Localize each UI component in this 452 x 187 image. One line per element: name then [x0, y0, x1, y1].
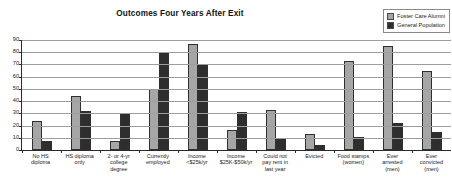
bar-groups: [22, 40, 451, 150]
bar-pair: [412, 40, 451, 150]
legend-swatch-icon: [387, 22, 394, 29]
gridline: [22, 126, 451, 127]
bar: [393, 123, 403, 150]
gridline: [22, 101, 451, 102]
y-axis-tickmark: [19, 77, 22, 78]
x-axis-label: Food stamps(women): [334, 153, 373, 187]
bar-group: [334, 40, 373, 150]
y-axis-tickmark: [19, 113, 22, 114]
x-axis-label: 2- or 4-yrcollegedegree: [99, 153, 138, 187]
x-axis-label: No HSdiploma: [21, 153, 60, 187]
y-axis-tickmark: [19, 89, 22, 90]
legend-item-label: Foster Care Alumni: [397, 12, 445, 21]
bar: [276, 138, 286, 150]
y-axis-tickmark: [19, 40, 22, 41]
x-axis-label: HS diplomaonly: [60, 153, 99, 187]
y-axis-tickmark: [19, 150, 22, 151]
y-axis-tickmark: [19, 101, 22, 102]
bar: [432, 132, 442, 150]
y-axis-tickmark: [19, 64, 22, 65]
gridline: [22, 113, 451, 114]
legend-item-label: General Population: [397, 21, 445, 30]
x-axis-label: Currentlyemployed: [138, 153, 177, 187]
bar: [237, 112, 247, 150]
y-axis-tickmark: [19, 52, 22, 53]
gridline: [22, 52, 451, 53]
bar-group: [295, 40, 334, 150]
bar-pair: [178, 40, 217, 150]
y-axis: 0102030405060708090: [0, 40, 21, 152]
bar-pair: [217, 40, 256, 150]
bar-pair: [295, 40, 334, 150]
bar-group: [100, 40, 139, 150]
bar-group: [139, 40, 178, 150]
bar-group: [22, 40, 61, 150]
legend-item-foster-care-alumni: Foster Care Alumni: [387, 12, 445, 21]
bar-pair: [61, 40, 100, 150]
chart-legend: Foster Care Alumni General Population: [383, 9, 450, 33]
bar: [149, 89, 159, 150]
bar: [227, 130, 237, 150]
x-axis-label: Everconvicted(men): [412, 153, 451, 187]
bar-group: [412, 40, 451, 150]
bar-pair: [22, 40, 61, 150]
bar: [344, 61, 354, 150]
legend-item-general-population: General Population: [387, 21, 445, 30]
bar-pair: [256, 40, 295, 150]
gridline: [22, 138, 451, 139]
bar: [383, 46, 393, 150]
bar-pair: [139, 40, 178, 150]
bar-group: [178, 40, 217, 150]
y-axis-tickmark: [19, 138, 22, 139]
x-axis-label: Income$25K-$50k/yr: [216, 153, 255, 187]
bar: [120, 113, 130, 150]
bar: [188, 44, 198, 150]
bar-pair: [100, 40, 139, 150]
bar-group: [61, 40, 100, 150]
gridline: [22, 40, 451, 41]
bar: [305, 134, 315, 150]
plot-area: 0102030405060708090: [0, 40, 452, 152]
chart-title: Outcomes Four Years After Exit: [0, 9, 360, 18]
bar: [266, 110, 276, 150]
x-axis-labels: No HSdiplomaHS diplomaonly2- or 4-yrcoll…: [21, 153, 451, 187]
bar: [71, 96, 81, 150]
bar-group: [256, 40, 295, 150]
bar-group: [217, 40, 256, 150]
bar: [110, 141, 120, 150]
gridline: [22, 150, 451, 151]
gridline: [22, 64, 451, 65]
plot-canvas: [21, 40, 451, 151]
bar-pair: [373, 40, 412, 150]
x-axis-label: Everarrested(men): [373, 153, 412, 187]
gridline: [22, 77, 451, 78]
x-axis-label: Could notpay rent inlast year: [256, 153, 295, 187]
y-axis-tickmark: [19, 126, 22, 127]
bar: [81, 111, 91, 150]
bar: [42, 141, 52, 150]
bar-group: [373, 40, 412, 150]
gridline: [22, 89, 451, 90]
legend-swatch-icon: [387, 13, 394, 20]
x-axis-label: Income<$25k/yr: [177, 153, 216, 187]
x-axis-label: Evicted: [295, 153, 334, 187]
bar-pair: [334, 40, 373, 150]
